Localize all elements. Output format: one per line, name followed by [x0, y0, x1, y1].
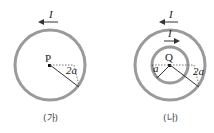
figure-caption: (가): [43, 113, 58, 123]
figure-caption: (나): [163, 113, 178, 123]
current-label: I: [48, 8, 54, 20]
center-label: P: [45, 52, 51, 64]
outer-current-label: I: [168, 8, 174, 20]
outer-radius-label: 2a: [193, 65, 205, 77]
diagram-canvas: I P 2a (가) I I Q a 2a (나): [0, 0, 214, 133]
center-label: Q: [165, 51, 173, 63]
inner-radius-line: [157, 65, 170, 78]
radius-label: 2a: [66, 64, 78, 76]
figure-ga: I P 2a (가): [15, 8, 85, 123]
inner-radius-label: a: [153, 62, 159, 74]
figure-na: I I Q a 2a (나): [135, 8, 205, 123]
